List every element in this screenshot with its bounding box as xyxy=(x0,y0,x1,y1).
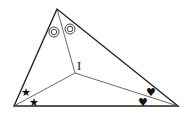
triangle-diagram: I ★ ★ ♥ ♥ xyxy=(0,0,190,116)
bisector-apex xyxy=(57,9,75,73)
bisector-right xyxy=(75,73,178,106)
star-icon: ★ xyxy=(29,96,39,109)
double-circle-icon xyxy=(49,27,59,37)
double-circle-icon xyxy=(65,24,75,34)
incenter-label: I xyxy=(77,58,81,73)
heart-icon: ♥ xyxy=(138,96,148,109)
